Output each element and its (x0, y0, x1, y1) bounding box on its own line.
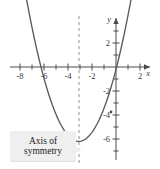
y-tick-label-neg2: -2 (103, 86, 110, 96)
x-tick-label-neg2: -2 (88, 71, 95, 81)
y-axis-arrow (113, 18, 118, 24)
x-tick-label-neg6: -6 (40, 71, 47, 81)
x-tick-label-neg4: -4 (64, 71, 72, 81)
figure-container: -8-6-4-222-2-4-6yx Axis of symmetry (0, 0, 160, 169)
y-tick-label-2: 2 (106, 38, 110, 48)
y-tick-label-neg6: -6 (103, 134, 110, 144)
callout-line-2: symmetry (24, 146, 62, 156)
y-axis-label: y (106, 14, 111, 24)
curve-marker-dot (110, 111, 113, 114)
callout-line-1: Axis of (29, 136, 57, 146)
y-tick-label-neg4: -4 (103, 110, 111, 120)
x-tick-label-2: 2 (138, 71, 142, 81)
axis-of-symmetry-callout: Axis of symmetry (10, 131, 76, 161)
x-axis-label: x (145, 68, 150, 78)
x-tick-label-neg8: -8 (16, 71, 23, 81)
